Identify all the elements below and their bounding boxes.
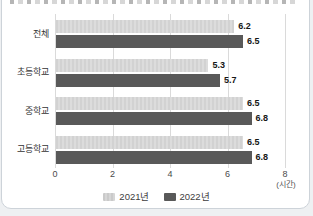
- value-label: 5.3: [212, 59, 225, 72]
- value-label: 6.8: [256, 151, 269, 164]
- bar-2021년-고등학교: [56, 136, 243, 149]
- legend-item-2022년: 2022년: [164, 192, 210, 202]
- value-label: 6.8: [256, 112, 269, 125]
- x-axis-unit-label: (시간): [270, 178, 302, 189]
- value-label: 6.5: [247, 136, 260, 149]
- bar-chart: 02468전체6.26.5초등학교5.35.7중학교6.56.8고등학교6.56…: [0, 0, 313, 216]
- bar-2021년-초등학교: [56, 59, 208, 72]
- bar-2021년-전체: [56, 20, 234, 33]
- gridline: [285, 14, 286, 168]
- value-label: 6.5: [247, 97, 260, 110]
- bar-2022년-고등학교: [56, 151, 252, 164]
- category-label: 중학교: [0, 106, 49, 117]
- legend-swatch: [103, 193, 115, 201]
- bar-2022년-전체: [56, 35, 243, 48]
- bar-2021년-중학교: [56, 97, 243, 110]
- legend-item-2021년: 2021년: [103, 192, 149, 202]
- value-label: 5.7: [224, 74, 237, 87]
- x-tick-label: 2: [103, 169, 123, 179]
- legend-swatch: [164, 193, 176, 201]
- bar-2022년-중학교: [56, 112, 252, 125]
- legend-label: 2022년: [180, 192, 210, 202]
- legend-label: 2021년: [119, 192, 149, 202]
- category-label: 전체: [0, 29, 49, 40]
- x-tick-label: 4: [160, 169, 180, 179]
- legend: 2021년2022년: [0, 191, 313, 203]
- category-label: 고등학교: [0, 144, 49, 155]
- x-tick-label: 0: [45, 169, 65, 179]
- bar-2022년-초등학교: [56, 74, 220, 87]
- value-label: 6.5: [247, 35, 260, 48]
- x-tick-label: 6: [218, 169, 238, 179]
- value-label: 6.2: [238, 20, 251, 33]
- category-label: 초등학교: [0, 67, 49, 78]
